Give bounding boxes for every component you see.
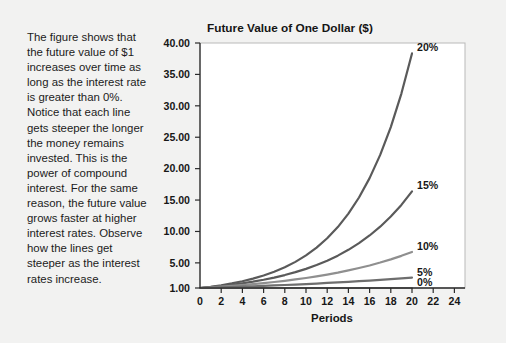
y-tick-label: 10.00 — [163, 225, 190, 237]
x-axis-title: Periods — [311, 312, 353, 324]
x-tick-label: 2 — [218, 295, 224, 307]
series-label-10pct: 10% — [417, 240, 439, 252]
x-tick-label: 0 — [197, 295, 203, 307]
y-tick-label: 20.00 — [163, 162, 190, 174]
x-tick-label: 10 — [300, 295, 312, 307]
x-tick-label: 8 — [282, 295, 288, 307]
x-tick-label: 20 — [406, 295, 418, 307]
y-tick-label: 25.00 — [163, 131, 190, 143]
series-label-15pct: 15% — [417, 179, 439, 191]
y-tick-label: 30.00 — [163, 100, 190, 112]
x-tick-label: 16 — [364, 295, 376, 307]
series-label-0pct: 0% — [417, 276, 433, 288]
y-tick-label: 40.00 — [163, 37, 190, 49]
y-tick-label: 15.00 — [163, 194, 190, 206]
x-tick-label: 6 — [261, 295, 267, 307]
y-tick-label: 35.00 — [163, 68, 190, 80]
y-tick-label: 1.00 — [169, 282, 190, 294]
x-tick-label: 22 — [427, 295, 439, 307]
x-tick-label: 4 — [239, 295, 245, 307]
x-tick-label: 12 — [321, 295, 333, 307]
x-tick-label: 24 — [449, 295, 461, 307]
y-axis: 1.005.0010.0015.0020.0025.0030.0035.0040… — [163, 37, 200, 294]
x-tick-label: 18 — [385, 295, 397, 307]
series-label-20pct: 20% — [417, 41, 439, 53]
x-tick-label: 14 — [343, 295, 355, 307]
figure-container: The figure shows that the future value o… — [0, 0, 506, 343]
y-tick-label: 5.00 — [169, 257, 190, 269]
chart-plot: 1.005.0010.0015.0020.0025.0030.0035.0040… — [0, 0, 506, 343]
x-axis: 024681012141618202224 — [197, 288, 465, 307]
